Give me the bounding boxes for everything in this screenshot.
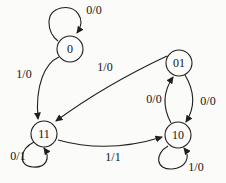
transition-0-to-11-label: 1/0 (16, 67, 31, 81)
transition-10-to-01-label: 0/0 (146, 92, 161, 106)
transition-0-self-loop (49, 8, 81, 41)
state-diagram-svg: 0 01 11 10 0/0 1/0 1/0 0/0 0/0 0/1 1/1 1… (0, 0, 226, 183)
state-0-label: 0 (67, 42, 73, 56)
transition-10-self-label: 1/0 (188, 160, 203, 174)
transition-10-self-loop (159, 146, 188, 169)
state-diagram: 0 01 11 10 0/0 1/0 1/0 0/0 0/0 0/1 1/1 1… (0, 0, 226, 183)
state-11-label: 11 (38, 127, 50, 141)
transition-11-to-10-label: 1/1 (105, 150, 120, 164)
state-01-label: 01 (173, 56, 185, 70)
transition-0-to-11 (37, 57, 59, 119)
transition-01-to-10 (185, 75, 193, 122)
transition-01-to-11-label: 1/0 (97, 60, 112, 74)
transition-11-self-loop (22, 142, 47, 167)
transition-01-to-10-label: 0/0 (200, 94, 215, 108)
transition-11-to-10 (58, 137, 162, 146)
transition-11-self-label: 0/1 (10, 149, 25, 163)
state-nodes (31, 36, 192, 148)
state-10-label: 10 (172, 128, 184, 142)
transition-edges (22, 8, 193, 169)
transition-10-to-01 (165, 77, 173, 123)
transition-0-self-label: 0/0 (86, 3, 101, 17)
